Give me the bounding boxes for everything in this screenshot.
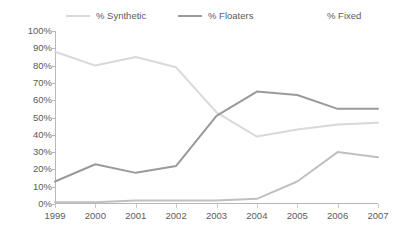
x-tick-label: 2006 [316,210,360,222]
x-tick-label: 2000 [73,210,117,222]
y-tick-label: 50% [6,113,52,123]
x-tick-label: 2005 [275,210,319,222]
x-tick-mark [55,204,56,208]
legend-item-fixed: % Fixed [297,8,361,24]
legend-item-synthetic: % Synthetic [66,8,146,24]
x-tick-mark [338,204,339,208]
legend-swatch-floaters [178,15,202,17]
series-line-floaters [55,92,378,182]
x-tick-label: 2002 [154,210,198,222]
y-tick-label: 60% [6,95,52,105]
x-tick-label: 1999 [33,210,77,222]
legend-label-floaters: % Floaters [208,8,253,24]
series-line-synthetic [55,52,378,137]
x-tick-label: 2003 [195,210,239,222]
x-tick-mark [378,204,379,208]
x-tick-mark [176,204,177,208]
x-tick-label: 2004 [235,210,279,222]
x-tick-mark [257,204,258,208]
y-tick-label: 90% [6,43,52,53]
x-tick-mark [136,204,137,208]
legend-label-fixed: % Fixed [327,8,361,24]
y-tick-label: 100% [6,26,52,36]
y-tick-label: 10% [6,182,52,192]
plot-lines [55,31,378,204]
x-tick-mark [95,204,96,208]
legend-label-synthetic: % Synthetic [96,8,146,24]
x-tick-mark [297,204,298,208]
y-tick-label: 30% [6,147,52,157]
x-tick-mark [217,204,218,208]
legend-item-floaters: % Floaters [178,8,253,24]
chart-legend: % Synthetic % Floaters % Fixed [0,8,394,24]
series-line-fixed [55,152,378,202]
y-tick-label: 20% [6,164,52,174]
y-tick-label: 40% [6,130,52,140]
y-tick-label: 80% [6,61,52,71]
line-chart: % Synthetic % Floaters % Fixed 100%90%80… [0,0,394,235]
y-tick-label: 70% [6,78,52,88]
x-tick-label: 2001 [114,210,158,222]
x-tick-label: 2007 [356,210,394,222]
y-tick-label: 0% [6,199,52,209]
legend-swatch-synthetic [66,15,90,17]
